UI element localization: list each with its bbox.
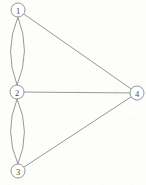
- edge-2-3-1: [17, 99, 24, 164]
- node-3[interactable]: 3: [11, 164, 25, 178]
- node-label-3: 3: [16, 167, 20, 177]
- node-layer: 1234: [10, 3, 144, 178]
- edge-2-4-1: [24, 92, 130, 93]
- node-label-1: 1: [16, 6, 20, 16]
- edge-2-3-2: [10, 99, 17, 164]
- edge-layer: [10, 14, 131, 167]
- graph-figure: 1234: [0, 0, 146, 185]
- edge-1-2-2: [10, 17, 17, 85]
- edge-1-2-1: [17, 17, 24, 85]
- graph-canvas: 1234: [0, 0, 146, 185]
- node-label-2: 2: [15, 88, 19, 98]
- edge-3-4-1: [24, 97, 131, 167]
- node-2[interactable]: 2: [10, 85, 24, 99]
- edge-1-4-1: [24, 14, 132, 89]
- node-4[interactable]: 4: [130, 86, 144, 100]
- node-1[interactable]: 1: [11, 3, 25, 17]
